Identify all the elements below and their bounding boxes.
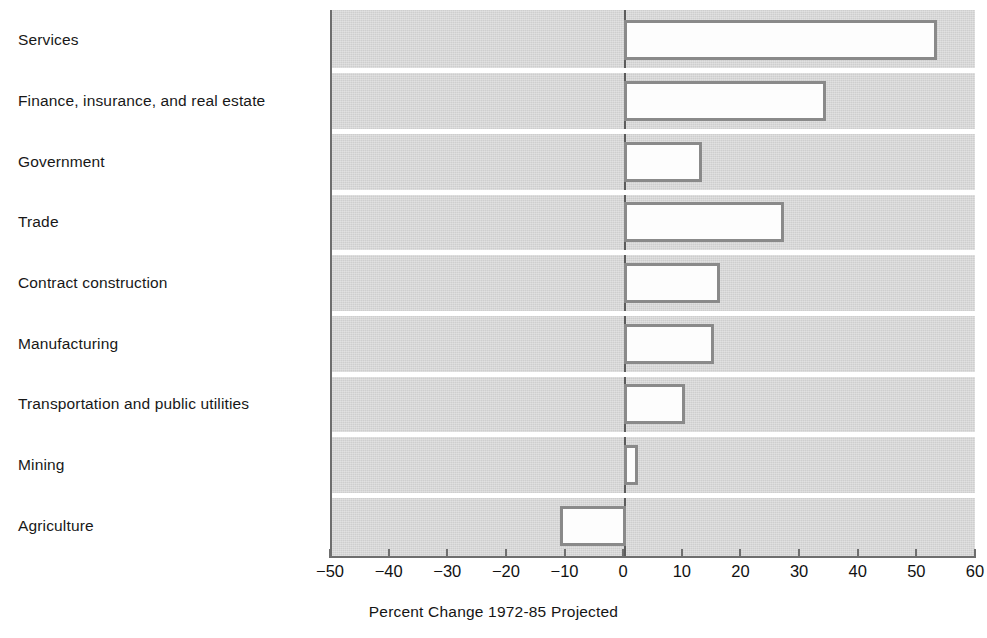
category-label: Agriculture [18, 518, 318, 534]
horizontal-bar-chart: ServicesFinance, insurance, and real est… [0, 0, 987, 638]
bar [624, 324, 714, 364]
plot-area [330, 10, 975, 556]
x-axis-tick-label: −20 [492, 563, 520, 580]
x-axis-tick-label: 40 [849, 563, 867, 580]
x-axis-tick-label: 10 [673, 563, 691, 580]
x-axis-tick [329, 549, 331, 558]
x-axis-tick [681, 549, 683, 558]
bar [624, 20, 937, 60]
category-label: Services [18, 32, 318, 48]
x-axis-tick [388, 549, 390, 558]
bar [560, 506, 627, 546]
category-label: Finance, insurance, and real estate [18, 93, 318, 109]
band-separator [332, 129, 977, 134]
x-axis-line [330, 556, 976, 558]
x-axis-tick-label: 0 [619, 563, 628, 580]
bar [624, 81, 825, 121]
category-label: Contract construction [18, 275, 318, 291]
bar [624, 445, 638, 485]
band-separator [332, 372, 977, 377]
band-separator [332, 68, 977, 73]
bar [624, 142, 702, 182]
x-axis-tick [798, 549, 800, 558]
x-axis-tick [857, 549, 859, 558]
x-axis-tick [915, 549, 917, 558]
x-axis-tick [564, 549, 566, 558]
category-label: Manufacturing [18, 336, 318, 352]
category-axis-labels: ServicesFinance, insurance, and real est… [0, 10, 322, 556]
band-separator [332, 250, 977, 255]
band-separator [332, 493, 977, 498]
x-axis-tick [505, 549, 507, 558]
band-separator [332, 432, 977, 437]
x-axis-tick-label: −10 [551, 563, 579, 580]
x-axis-tick [974, 549, 976, 558]
x-axis-title: Percent Change 1972-85 Projected [0, 603, 987, 621]
bar [624, 202, 784, 242]
x-axis-tick [622, 549, 624, 558]
x-axis-tick-label: 30 [790, 563, 808, 580]
band-separator [332, 311, 977, 316]
band-separator [332, 190, 977, 195]
category-label: Trade [18, 214, 318, 230]
x-axis-tick-label: −50 [316, 563, 344, 580]
x-axis-tick [739, 549, 741, 558]
category-label: Transportation and public utilities [18, 396, 318, 412]
bar [624, 263, 720, 303]
x-axis-tick-label: −30 [433, 563, 461, 580]
category-label: Mining [18, 457, 318, 473]
x-axis-tick-label: 20 [731, 563, 749, 580]
x-axis-tick-label: 50 [907, 563, 925, 580]
x-axis-tick [446, 549, 448, 558]
bar [624, 384, 685, 424]
x-axis-tick-label: 60 [966, 563, 984, 580]
category-label: Government [18, 154, 318, 170]
x-axis-tick-label: −40 [375, 563, 403, 580]
